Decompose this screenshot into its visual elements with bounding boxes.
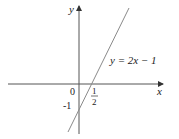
graph: y x 0 -1 1 2 y = 2x − 1 — [0, 0, 179, 139]
x-axis-label: x — [156, 85, 162, 97]
y-intercept-label: -1 — [63, 100, 71, 111]
function-line — [68, 8, 129, 132]
y-axis-label: y — [68, 3, 74, 15]
equation-label: y = 2x − 1 — [109, 54, 157, 66]
x-intercept-denominator: 2 — [92, 97, 97, 107]
origin-label: 0 — [70, 86, 75, 97]
x-intercept-numerator: 1 — [92, 86, 97, 96]
